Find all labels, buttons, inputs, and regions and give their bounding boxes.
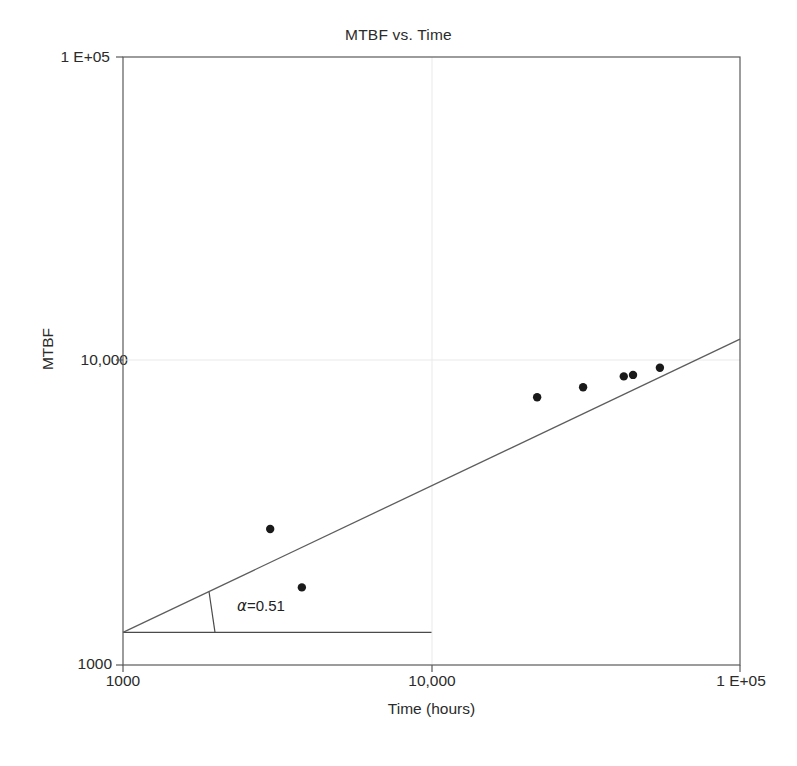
axis-ticks: [116, 57, 740, 672]
data-point: [266, 525, 274, 533]
data-point: [656, 364, 664, 372]
slope-triangle: [123, 592, 432, 633]
data-point: [298, 583, 306, 591]
data-point: [629, 371, 637, 379]
gridlines: [123, 57, 740, 665]
data-point-group: [266, 364, 664, 592]
data-point: [533, 393, 541, 401]
slope-triangle-tick: [209, 592, 215, 633]
data-point: [579, 383, 587, 391]
plot-area: [0, 0, 797, 766]
chart-figure: MTBF vs. Time MTBF Time (hours) 1 E+05 1…: [0, 0, 797, 766]
data-point: [620, 372, 628, 380]
